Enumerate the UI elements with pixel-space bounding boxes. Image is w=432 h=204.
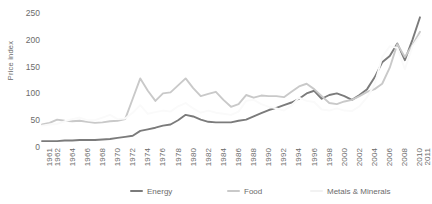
x-tick-label: 2006 xyxy=(385,148,394,166)
legend-swatch-icon xyxy=(227,190,240,193)
legend-item[interactable]: Food xyxy=(227,184,262,198)
x-tick-label: 1976 xyxy=(158,148,167,166)
x-tick-label: 1982 xyxy=(204,148,213,166)
y-axis-tick-labels: 050100150200250 xyxy=(16,0,40,152)
x-tick-label: 1968 xyxy=(98,148,107,166)
x-tick-label: 1990 xyxy=(264,148,273,166)
y-tick-label: 0 xyxy=(16,142,40,152)
x-tick-label: 1988 xyxy=(249,148,258,166)
x-tick-label: 2002 xyxy=(355,148,364,166)
legend-swatch-icon xyxy=(310,190,323,193)
x-tick-label: 1992 xyxy=(279,148,288,166)
x-tick-label: 1994 xyxy=(294,148,303,166)
x-tick-label: 1996 xyxy=(310,148,319,166)
legend-swatch-icon xyxy=(130,190,143,193)
x-tick-label: 1966 xyxy=(83,148,92,166)
series-line xyxy=(42,32,420,125)
y-tick-label: 150 xyxy=(16,62,40,72)
x-tick-label: 2004 xyxy=(370,148,379,166)
chart-legend: EnergyFoodMetals & Minerals xyxy=(42,184,420,200)
x-tick-label: 2011 xyxy=(423,148,432,166)
x-tick-label: 1962 xyxy=(53,148,62,166)
x-tick-label: 1964 xyxy=(68,148,77,166)
x-tick-label: 1978 xyxy=(174,148,183,166)
legend-label: Food xyxy=(244,187,262,196)
y-tick-label: 50 xyxy=(16,115,40,125)
legend-label: Energy xyxy=(147,187,172,196)
x-tick-label: 1974 xyxy=(143,148,152,166)
x-tick-label: 1972 xyxy=(128,148,137,166)
plot-svg xyxy=(42,5,420,147)
plot-area xyxy=(42,5,420,147)
x-tick-label: 2000 xyxy=(340,148,349,166)
x-axis-tick-labels: 1961196219641966196819701972197419761978… xyxy=(42,148,420,182)
y-tick-label: 100 xyxy=(16,88,40,98)
y-axis-title: Price index xyxy=(6,26,15,96)
legend-item[interactable]: Energy xyxy=(130,184,172,198)
x-tick-label: 2008 xyxy=(400,148,409,166)
series-line xyxy=(42,36,420,126)
y-tick-label: 200 xyxy=(16,35,40,45)
x-tick-label: 1970 xyxy=(113,148,122,166)
legend-label: Metals & Minerals xyxy=(327,187,391,196)
x-tick-label: 1986 xyxy=(234,148,243,166)
y-tick-label: 250 xyxy=(16,8,40,18)
legend-item[interactable]: Metals & Minerals xyxy=(310,184,391,198)
x-tick-label: 1980 xyxy=(189,148,198,166)
x-tick-label: 1998 xyxy=(325,148,334,166)
x-tick-label: 1984 xyxy=(219,148,228,166)
